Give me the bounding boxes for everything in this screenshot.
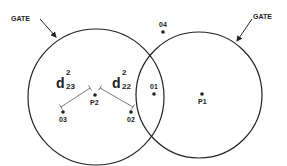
point-01-dot bbox=[152, 92, 156, 96]
distance-d23-subscript: 23 bbox=[66, 82, 75, 91]
distance-d22-subscript: 22 bbox=[122, 82, 131, 91]
point-02-label: 02 bbox=[127, 116, 135, 123]
point-p1-label: P1 bbox=[198, 98, 207, 105]
point-p1-dot bbox=[200, 92, 204, 96]
distance-d23-base: d bbox=[56, 75, 65, 91]
point-03-label: 03 bbox=[59, 116, 67, 123]
right-gate-label: GATE bbox=[253, 13, 272, 20]
point-04-label: 04 bbox=[159, 21, 167, 28]
distance-d23-superscript: 2 bbox=[66, 68, 70, 77]
distance-d22-base: d bbox=[112, 75, 121, 91]
distance-d23-label: d 2 23 bbox=[56, 74, 65, 92]
left-gate-label: GATE bbox=[11, 15, 30, 22]
left-gate-circle bbox=[28, 29, 164, 165]
right-gate-arrow bbox=[237, 19, 252, 41]
point-04-dot bbox=[161, 30, 165, 34]
point-03-dot bbox=[61, 110, 65, 114]
distance-d22-label: d 2 22 bbox=[112, 74, 121, 92]
point-p2-label: P2 bbox=[90, 99, 99, 106]
point-p2-dot bbox=[93, 93, 97, 97]
point-02-dot bbox=[129, 110, 133, 114]
left-gate-arrow bbox=[40, 19, 56, 37]
gate-diagram bbox=[0, 0, 287, 166]
distance-d22-superscript: 2 bbox=[122, 68, 126, 77]
point-01-label: 01 bbox=[150, 83, 158, 90]
